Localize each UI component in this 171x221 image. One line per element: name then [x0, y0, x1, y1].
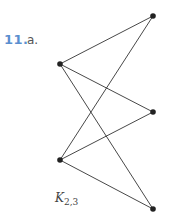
vertex-R2 [150, 109, 156, 115]
edge-L2-R1 [60, 16, 153, 160]
bipartite-graph [0, 0, 171, 221]
vertex-L2 [57, 157, 63, 163]
vertex-L1 [57, 61, 63, 67]
graph-subscript: 2,3 [64, 197, 78, 207]
vertex-R1 [150, 13, 156, 19]
edge-L1-R1 [60, 16, 153, 64]
graph-label: K2,3 [55, 191, 78, 207]
graph-name: K [55, 191, 64, 205]
edge-L2-R2 [60, 112, 153, 160]
vertex-R3 [150, 206, 156, 212]
